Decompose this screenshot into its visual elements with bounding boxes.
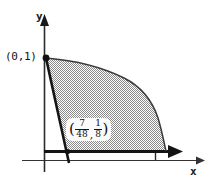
y-fraction: 1 8 bbox=[94, 119, 102, 139]
point-marker-0-1 bbox=[43, 55, 50, 62]
x-numerator: 7 bbox=[78, 119, 86, 128]
y-axis-label: y bbox=[36, 11, 43, 22]
x-fraction: 7 48 bbox=[75, 119, 88, 139]
graph-canvas bbox=[0, 0, 209, 194]
y-numerator: 1 bbox=[94, 119, 102, 128]
x-denominator: 48 bbox=[75, 130, 88, 139]
vertex-coordinate-label: ( 7 48 , 1 8 ) bbox=[66, 118, 111, 141]
y-intercept-label: (0,1) bbox=[5, 51, 37, 62]
y-denominator: 8 bbox=[94, 130, 102, 139]
y-axis bbox=[40, 14, 49, 172]
coordinate-separator: , bbox=[90, 129, 94, 140]
close-paren: ) bbox=[103, 121, 109, 136]
x-axis-label: x bbox=[190, 166, 197, 177]
point-marker-vertex bbox=[65, 149, 70, 154]
x-axis bbox=[22, 157, 205, 165]
math-figure: y x (0,1) ( 7 48 , 1 8 ) bbox=[0, 0, 209, 194]
open-paren: ( bbox=[69, 121, 75, 136]
